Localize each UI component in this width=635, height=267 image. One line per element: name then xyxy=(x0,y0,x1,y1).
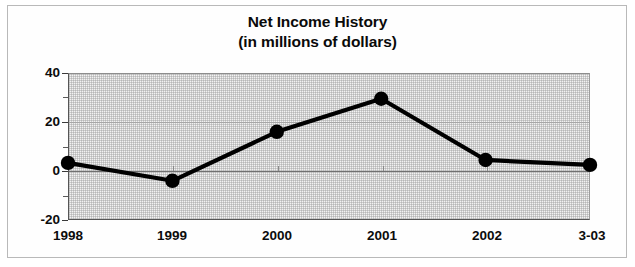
ytick-mark-neg10 xyxy=(63,196,68,197)
xtick-label-2000: 2000 xyxy=(237,228,317,243)
xtick-label-3-03: 3-03 xyxy=(552,228,632,243)
xtick-inner-1999 xyxy=(173,166,174,171)
chart-figure: Net Income History (in millions of dolla… xyxy=(0,0,635,267)
ytick-label-neg20: -20 xyxy=(20,212,60,227)
chart-subtitle: (in millions of dollars) xyxy=(0,32,635,52)
ytick-label-20: 20 xyxy=(20,114,60,129)
ytick-mark-30 xyxy=(63,97,68,98)
xtick-label-1999: 1999 xyxy=(132,228,212,243)
chart-title-block: Net Income History (in millions of dolla… xyxy=(0,12,635,52)
ytick-mark-20 xyxy=(62,122,68,123)
ytick-label-40: 40 xyxy=(20,65,60,80)
ytick-mark-neg20 xyxy=(62,220,68,221)
gridline-20 xyxy=(69,122,589,123)
ytick-label-0: 0 xyxy=(20,163,60,178)
xtick-inner-2000 xyxy=(278,166,279,171)
xtick-inner-2002 xyxy=(487,166,488,171)
chart-title: Net Income History xyxy=(0,12,635,32)
plot-area xyxy=(68,73,590,220)
xtick-label-2001: 2001 xyxy=(342,228,422,243)
ytick-mark-10 xyxy=(63,147,68,148)
gridline-zero xyxy=(69,171,589,172)
ytick-mark-0 xyxy=(62,171,68,172)
xtick-label-2002: 2002 xyxy=(447,228,527,243)
xtick-inner-2001 xyxy=(383,166,384,171)
xtick-label-1998: 1998 xyxy=(28,228,108,243)
ytick-mark-40 xyxy=(62,73,68,74)
